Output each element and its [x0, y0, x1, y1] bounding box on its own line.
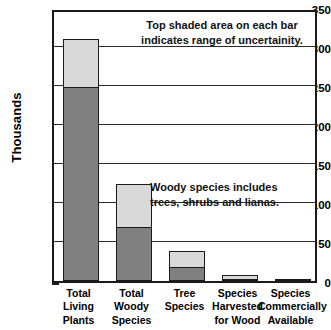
annotation-uncertainty: Top shaded area on each bar indicates ra… — [132, 18, 312, 47]
bar-segment-uncertainty-2 — [117, 185, 151, 228]
x-label-5: Species Commercially Available — [258, 287, 323, 327]
bar-segment-uncertainty-3 — [170, 252, 204, 267]
y-tick-major-0 — [52, 283, 59, 285]
bar-1 — [63, 39, 99, 281]
bar-5 — [275, 279, 311, 281]
bar-chart-figure: Thousands 050100150200250300350 Top shad… — [0, 0, 331, 330]
y-axis-title: Thousands — [9, 68, 24, 188]
bar-segment-estimate-4 — [223, 279, 257, 280]
annotation-woody: Woody species includes trees, shrubs and… — [150, 180, 320, 209]
bar-segment-estimate-2 — [117, 227, 151, 280]
bar-segment-uncertainty-1 — [64, 40, 98, 87]
plot-area: Top shaded area on each bar indicates ra… — [52, 10, 317, 283]
bar-3 — [169, 251, 205, 281]
bar-segment-estimate-5 — [276, 280, 310, 281]
bar-segment-estimate-1 — [64, 87, 98, 280]
bar-2 — [116, 184, 152, 282]
x-axis-labels: Total Living PlantsTotal Woody SpeciesTr… — [52, 287, 317, 330]
bar-segment-estimate-3 — [170, 267, 204, 280]
bar-4 — [222, 275, 258, 281]
